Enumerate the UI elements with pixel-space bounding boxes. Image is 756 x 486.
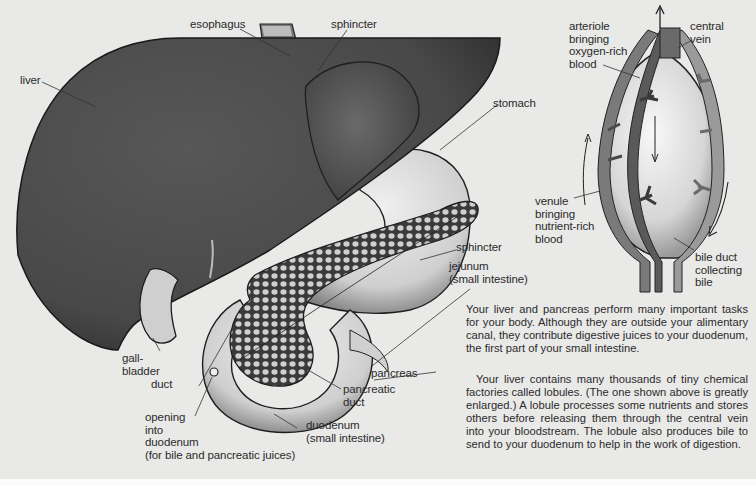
label-opening-into-duodenum: opening into duodenum (for bile and panc…: [145, 411, 295, 461]
label-liver: liver: [20, 74, 41, 87]
label-sphincter-lower: sphincter: [456, 241, 502, 254]
label-venule: venule bringing nutrient-rich blood: [535, 195, 594, 245]
page-bottom-edge: [0, 479, 756, 486]
label-duct: duct: [151, 378, 172, 391]
label-pancreas: pancreas: [371, 367, 418, 380]
label-jejunum: jejunum (small intestine): [449, 260, 528, 285]
digestive-organs-diagram: esophagus sphincter liver stomach sphinc…: [0, 0, 756, 486]
label-duodenum: duodenum (small intestine): [306, 419, 385, 444]
label-arteriole: arteriole bringing oxygen-rich blood: [569, 20, 627, 70]
label-central-vein: central vein: [690, 20, 724, 45]
duodenum-opening: [210, 368, 218, 376]
label-bile-duct: bile duct collecting bile: [695, 251, 742, 289]
label-sphincter-upper: sphincter: [331, 18, 377, 31]
label-gallbladder: gall- bladder: [122, 352, 160, 377]
label-stomach: stomach: [493, 97, 536, 110]
paragraph-lobules: Your liver contains many thousands of ti…: [466, 373, 748, 452]
label-pancreatic-duct: pancreatic duct: [343, 383, 395, 408]
paragraph-intro: Your liver and pancreas perform many imp…: [466, 303, 748, 355]
label-esophagus: esophagus: [190, 18, 245, 31]
